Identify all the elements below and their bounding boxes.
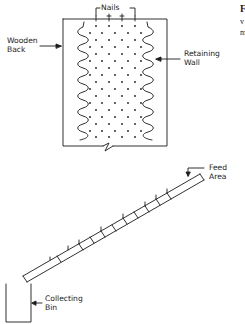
feed-area-arrow (186, 168, 204, 176)
ramp-chute (23, 174, 204, 282)
caption-fragment-3: m (240, 28, 245, 37)
wooden-back-arrow (40, 44, 61, 48)
collecting-bin-arrow (32, 301, 42, 305)
nail-grid (89, 25, 142, 138)
retaining-wall-label: Retaining Wall (184, 49, 220, 67)
nails-label: Nails (101, 3, 120, 12)
wooden-back-label: Wooden Back (7, 36, 38, 54)
diagram-canvas: Nails Wooden Back Retaining Wall Feed Ar… (0, 0, 245, 324)
caption-fragment-2: v (240, 17, 244, 26)
left-retaining-wall (78, 22, 89, 140)
collecting-bin-label: Collecting Bin (45, 294, 83, 312)
right-retaining-wall (143, 22, 154, 140)
collecting-bin (6, 284, 31, 322)
retaining-wall-arrow (156, 57, 180, 61)
feed-area-label: Feed Area (209, 163, 227, 181)
caption-fragment-1: F (240, 3, 245, 14)
